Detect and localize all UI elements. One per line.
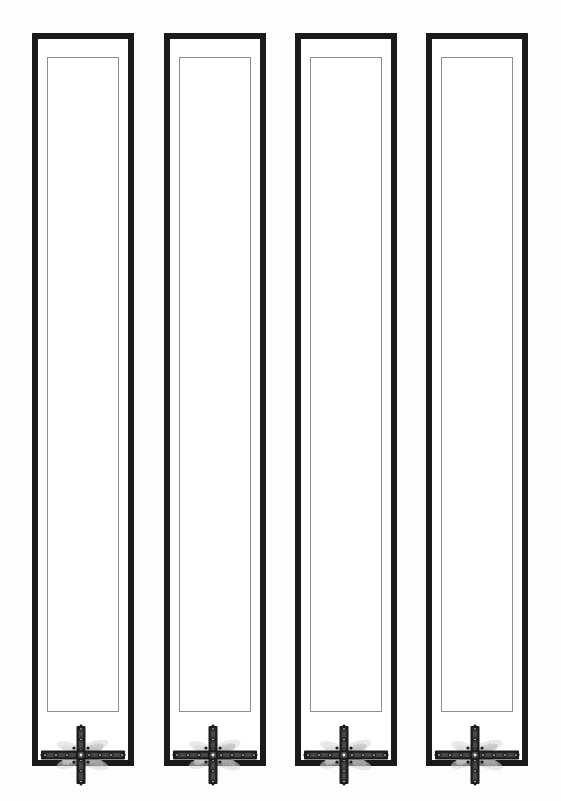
bookmark-panel[interactable] — [164, 33, 266, 766]
bookmark-panel[interactable] — [426, 33, 528, 766]
jeweled-cross-ornament-icon — [301, 723, 391, 787]
panel-inner-frame — [310, 57, 382, 712]
jeweled-cross-ornament-icon — [170, 723, 260, 787]
panel-inner-frame — [441, 57, 513, 712]
bookmark-panel[interactable] — [32, 33, 134, 766]
jeweled-cross-ornament-icon — [38, 723, 128, 787]
panel-inner-frame — [47, 57, 119, 712]
bookmark-panel[interactable] — [295, 33, 397, 766]
panel-inner-frame — [179, 57, 251, 712]
jeweled-cross-ornament-icon — [432, 723, 522, 787]
page-canvas — [0, 0, 561, 801]
